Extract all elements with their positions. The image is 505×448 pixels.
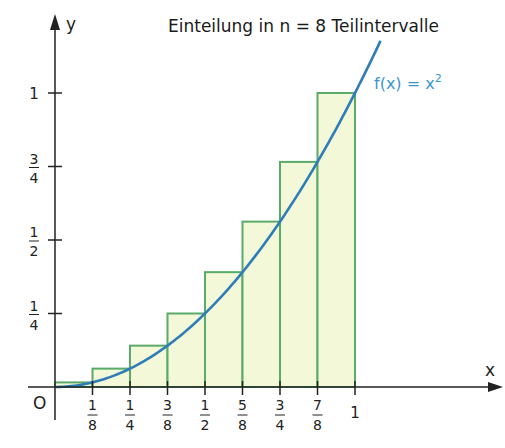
- x-tick-numerator: 3: [163, 397, 172, 413]
- x-tick-label: 1: [350, 404, 360, 422]
- x-axis-arrow-icon: [488, 382, 503, 392]
- y-axis-label: y: [66, 14, 76, 34]
- x-tick-numerator: 1: [88, 397, 97, 413]
- x-tick-numerator: 1: [201, 397, 210, 413]
- y-tick-denominator: 2: [30, 243, 39, 259]
- x-tick-numerator: 3: [276, 397, 285, 413]
- y-tick-numerator: 3: [30, 151, 39, 167]
- x-ticks-group: 181438125834781: [88, 381, 360, 433]
- riemann-sum-chart: 181438125834781 1412341 Einteilung in n …: [0, 0, 505, 448]
- y-tick-denominator: 4: [30, 170, 39, 186]
- rectangle-7: [280, 162, 318, 387]
- rectangle-4: [168, 314, 206, 388]
- function-label-exponent: 2: [435, 72, 442, 85]
- rectangles-group: [55, 93, 355, 387]
- function-label-text: f(x) = x: [374, 74, 435, 93]
- origin-label: O: [33, 393, 46, 413]
- y-tick-label: 1: [29, 85, 39, 103]
- y-tick-numerator: 1: [30, 224, 39, 240]
- rectangle-5: [205, 272, 243, 387]
- x-tick-numerator: 5: [238, 397, 247, 413]
- rectangle-8: [318, 93, 356, 387]
- function-label: f(x) = x2: [374, 72, 442, 93]
- x-tick-denominator: 8: [238, 417, 247, 433]
- x-tick-denominator: 4: [126, 417, 135, 433]
- x-tick-denominator: 4: [276, 417, 285, 433]
- x-tick-denominator: 8: [88, 417, 97, 433]
- y-ticks-group: 1412341: [29, 85, 62, 333]
- x-tick-numerator: 1: [126, 397, 135, 413]
- x-tick-numerator: 7: [313, 397, 322, 413]
- chart-title: Einteilung in n = 8 Teilintervalle: [168, 16, 439, 36]
- x-tick-denominator: 2: [201, 417, 210, 433]
- x-axis-label: x: [485, 360, 495, 380]
- y-tick-denominator: 4: [30, 317, 39, 333]
- y-tick-numerator: 1: [30, 298, 39, 314]
- y-axis-arrow-icon: [50, 14, 60, 30]
- x-tick-denominator: 8: [313, 417, 322, 433]
- x-tick-denominator: 8: [163, 417, 172, 433]
